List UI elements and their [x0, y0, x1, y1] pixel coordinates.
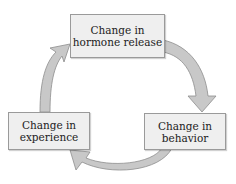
- node-behavior: Change in behavior: [144, 113, 226, 150]
- node-experience-line2: experience: [20, 131, 79, 143]
- node-hormone-release: Change in hormone release: [70, 14, 165, 58]
- arrow-behavior-to-experience: [70, 148, 172, 170]
- node-hormone-line1: Change in: [73, 24, 162, 36]
- arrow-hormone-to-behavior: [163, 40, 216, 112]
- node-behavior-line2: behavior: [158, 132, 212, 144]
- node-hormone-line2: hormone release: [73, 36, 162, 48]
- hormone-behavior-cycle-diagram: Change in hormone release Change in beha…: [0, 0, 236, 184]
- arrow-experience-to-hormone: [40, 44, 70, 112]
- node-experience: Change in experience: [8, 112, 90, 150]
- node-behavior-line1: Change in: [158, 120, 212, 132]
- node-experience-line1: Change in: [20, 119, 79, 131]
